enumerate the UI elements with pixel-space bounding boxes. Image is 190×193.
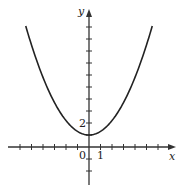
- x-axis-label: x: [169, 150, 176, 163]
- origin-label: 0: [79, 149, 86, 162]
- x-tick-label-1: 1: [97, 149, 104, 162]
- y-axis-arrow-icon: [86, 9, 92, 17]
- graph: x y 0 1 2: [0, 0, 190, 193]
- x-axis: [8, 144, 176, 150]
- y-axis: [86, 9, 92, 185]
- y-axis-label: y: [77, 5, 85, 18]
- y-tick-label-2: 2: [79, 117, 86, 130]
